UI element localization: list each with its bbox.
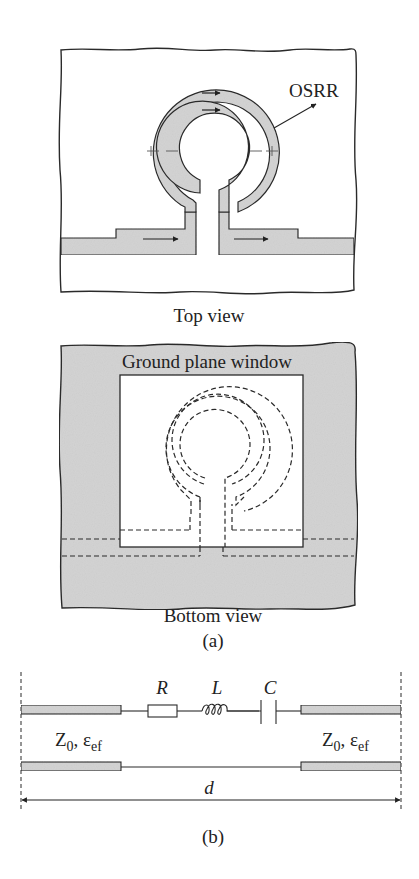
line-left-params: Z0, εef xyxy=(55,729,102,754)
tline-left-bottom xyxy=(21,762,121,771)
panel-a-label: (a) xyxy=(202,630,223,652)
line-right-params: Z0, εef xyxy=(322,729,369,754)
resistor-symbol xyxy=(148,705,177,717)
osrr-figure: OSRR Top view Ground plane window xyxy=(0,0,419,879)
top-view-caption: Top view xyxy=(174,305,245,326)
equivalent-circuit: R L C Z0, εef Z0, εef d (b) xyxy=(21,672,401,848)
tline-left-top xyxy=(21,705,121,714)
tline-right-bottom xyxy=(301,762,401,771)
bottom-view: Ground plane window Bottom view xyxy=(59,342,358,652)
inductor-symbol xyxy=(202,704,259,714)
ground-plane-window xyxy=(120,375,303,547)
ground-window-label: Ground plane window xyxy=(122,351,292,372)
tline-right-top xyxy=(301,705,401,714)
resistor-label: R xyxy=(155,677,168,698)
panel-b-label: (b) xyxy=(202,826,224,848)
inductor-label: L xyxy=(211,677,223,698)
top-view: OSRR Top view xyxy=(59,48,357,326)
osrr-label: OSRR xyxy=(289,80,339,101)
capacitor-label: C xyxy=(264,677,277,698)
length-label: d xyxy=(204,777,214,798)
bottom-view-caption: Bottom view xyxy=(164,605,263,626)
